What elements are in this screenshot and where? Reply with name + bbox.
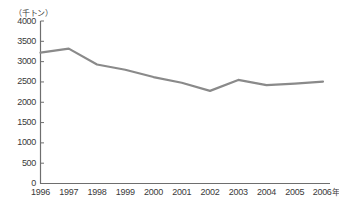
axis-lines (40, 21, 330, 184)
data-series-line (41, 49, 324, 91)
